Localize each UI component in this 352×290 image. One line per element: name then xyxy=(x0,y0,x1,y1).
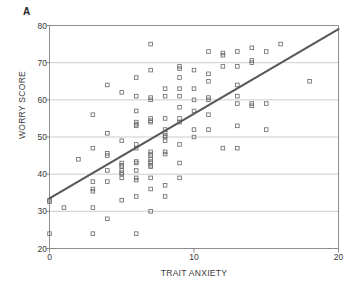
regression-line xyxy=(50,29,339,198)
data-points xyxy=(48,42,312,235)
scatter-plot-canvas xyxy=(0,0,352,290)
gridlines xyxy=(50,63,339,212)
figure-panel: A WORRY SCORE TRAIT ANXIETY 203040506070… xyxy=(0,0,352,290)
